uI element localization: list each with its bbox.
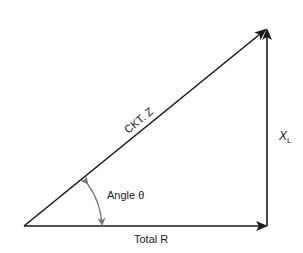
ckt-z-vector [24,30,265,226]
angle-arc [87,183,102,224]
total-r-label: Total R [134,233,168,245]
xl-label-subscript: L [287,136,292,145]
ckt-z-label: CKT. Z [122,105,156,136]
xl-label: XL [278,129,292,145]
impedance-triangle-diagram: CKT. Z Total R Angle θ XL [0,0,303,253]
angle-theta-label: Angle θ [107,189,144,201]
